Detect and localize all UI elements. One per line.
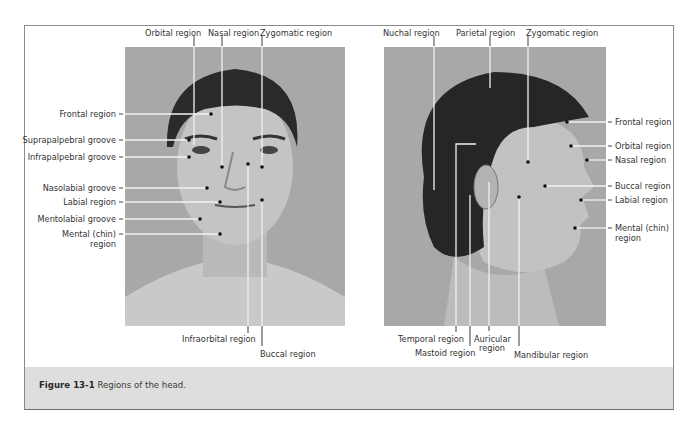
dot-frontal-lat [565,120,569,124]
dot-mandibular [517,195,521,199]
label-mental-chin-region-lateral: Mental (chin) [615,223,669,233]
label-mastoid-region: Mastoid region [415,348,476,358]
dot-infrapalpebral [187,155,191,159]
dot-mental [218,232,222,236]
label-buccal-region: Buccal region [260,349,316,359]
dot-buccal [260,198,264,202]
label-mental-chin-region-lateral-line2: region [615,233,641,243]
dot-mental-lat [573,226,577,230]
dot-labial [218,200,222,204]
label-infraorbital-region: Infraorbital region [182,334,256,344]
label-orbital-region: Orbital region [145,28,201,38]
label-parietal-region: Parietal region [456,28,515,38]
dot-nasal [220,165,224,169]
label-nasolabial-groove: Nasolabial groove [43,183,116,193]
leader-temporal [456,144,476,330]
leader-lines [0,0,696,421]
label-mentolabial-groove: Mentolabial groove [38,214,116,224]
label-auricular-region-line2: region [479,343,505,353]
dot-buccal-lat [543,184,547,188]
dot-nasal-lat [585,158,589,162]
dot-zygomatic [260,165,264,169]
label-frontal-region-lateral: Frontal region [615,117,672,127]
label-labial-region: Labial region [63,197,116,207]
label-orbital-region-lateral: Orbital region [615,141,671,151]
dot-orbital-lat [569,144,573,148]
dot-zygomatic-lat [526,160,530,164]
dot-labial-lat [579,198,583,202]
label-nuchal-region: Nuchal region [383,28,440,38]
label-buccal-region-lateral: Buccal region [615,181,671,191]
label-nasal-region: Nasal region [208,28,259,38]
label-labial-region-lateral: Labial region [615,195,668,205]
dot-infraorbital [246,162,250,166]
label-zygomatic-region-lateral: Zygomatic region [526,28,598,38]
label-mental-chin-region-line2: region [90,239,116,249]
label-zygomatic-region: Zygomatic region [260,28,332,38]
dot-frontal [209,112,213,116]
dot-nasolabial [205,186,209,190]
label-suprapalpebral-groove: Suprapalpebral groove [23,135,116,145]
label-nasal-region-lateral: Nasal region [615,155,666,165]
dot-mentolabial [198,217,202,221]
label-infrapalpebral-groove: Infrapalpebral groove [28,152,116,162]
label-frontal-region: Frontal region [60,109,117,119]
dot-suprapalpebral [187,138,191,142]
label-mental-chin-region: Mental (chin) [62,229,116,239]
label-mandibular-region: Mandibular region [514,350,588,360]
label-temporal-region: Temporal region [398,334,464,344]
